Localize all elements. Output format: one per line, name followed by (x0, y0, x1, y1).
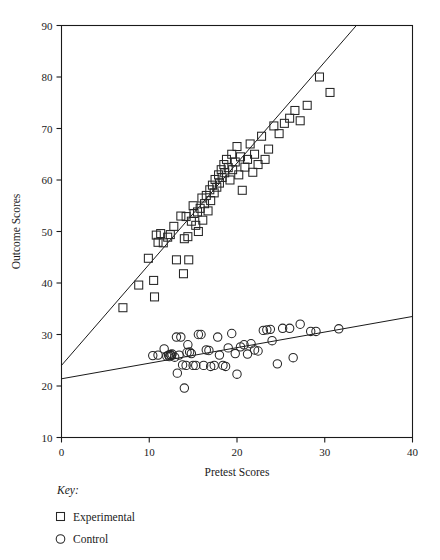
chart-canvas: 102030405060708090 010203040 Pretest Sco… (0, 0, 440, 560)
regression-lines (62, 26, 413, 379)
data-point-experimental (291, 106, 299, 114)
y-tick-label-40: 40 (42, 277, 54, 289)
data-point-experimental (170, 222, 178, 230)
data-point-control (273, 360, 281, 368)
y-tick-label-10: 10 (42, 432, 54, 444)
data-point-experimental (119, 304, 127, 312)
x-tick-label-30: 30 (319, 446, 331, 458)
legend-square-icon (57, 513, 65, 521)
data-point-experimental (150, 276, 158, 284)
x-axis-ticks: 010203040 (59, 438, 419, 458)
legend-label-experimental: Experimental (73, 511, 135, 524)
data-point-experimental (144, 254, 152, 262)
plot-border (62, 26, 413, 438)
series-control-points (149, 320, 343, 392)
y-axis-title: Outcome Scores (10, 193, 22, 269)
series-experimental-points (119, 73, 334, 312)
data-point-experimental (194, 228, 202, 236)
x-tick-label-40: 40 (407, 446, 419, 458)
data-point-control (180, 384, 188, 392)
y-tick-label-50: 50 (42, 226, 54, 238)
legend-circle-icon (56, 535, 65, 544)
data-point-experimental (296, 117, 304, 125)
legend: Key: Experimental Control (56, 484, 135, 545)
x-tick-label-0: 0 (59, 446, 65, 458)
data-point-control (215, 351, 223, 359)
data-point-experimental (280, 119, 288, 127)
scatter-plot-figure: 102030405060708090 010203040 Pretest Sco… (0, 0, 440, 560)
data-point-control (221, 362, 229, 370)
y-tick-label-30: 30 (42, 329, 54, 341)
data-point-control (312, 327, 320, 335)
x-axis-title: Pretest Scores (205, 466, 270, 478)
data-point-control (224, 344, 232, 352)
data-point-experimental (326, 88, 334, 96)
x-tick-label-20: 20 (232, 446, 244, 458)
data-point-experimental (135, 281, 143, 289)
data-point-experimental (222, 155, 230, 163)
y-tick-label-20: 20 (42, 380, 54, 392)
data-point-experimental (238, 186, 246, 194)
y-tick-label-80: 80 (42, 71, 54, 83)
data-point-experimental (249, 168, 257, 176)
y-tick-label-70: 70 (42, 123, 54, 135)
data-point-experimental (228, 150, 236, 158)
y-tick-label-90: 90 (42, 20, 54, 32)
data-point-experimental (265, 145, 273, 153)
data-point-control (173, 369, 181, 377)
data-point-experimental (151, 293, 159, 301)
data-point-experimental (275, 130, 283, 138)
plot-frame (62, 26, 413, 438)
data-point-control (233, 370, 241, 378)
data-point-control (289, 353, 297, 361)
data-point-control (296, 320, 304, 328)
data-point-experimental (172, 256, 180, 264)
data-point-control (213, 333, 221, 341)
data-point-experimental (182, 213, 190, 221)
regression-line (62, 26, 357, 366)
data-point-control (228, 329, 236, 337)
data-point-experimental (286, 114, 294, 122)
data-point-experimental (179, 270, 187, 278)
legend-title: Key: (56, 484, 79, 497)
data-point-experimental (177, 212, 185, 220)
x-tick-label-10: 10 (144, 446, 156, 458)
legend-label-control: Control (73, 533, 108, 545)
y-tick-label-60: 60 (42, 174, 54, 186)
y-axis-ticks: 102030405060708090 (42, 20, 62, 444)
data-point-experimental (303, 101, 311, 109)
data-point-experimental (258, 132, 266, 140)
data-point-experimental (185, 256, 193, 264)
data-point-experimental (233, 143, 241, 151)
data-point-experimental (315, 73, 323, 81)
data-point-experimental (241, 163, 249, 171)
data-point-experimental (235, 171, 243, 179)
